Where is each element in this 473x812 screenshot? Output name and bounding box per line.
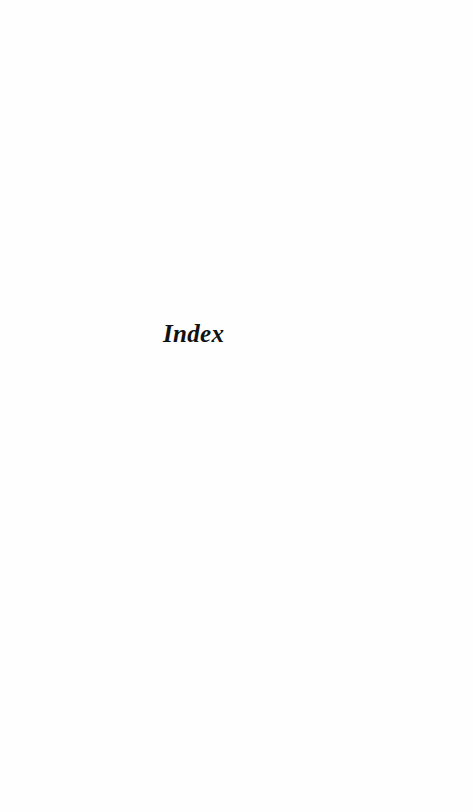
page-title: Index <box>163 320 224 348</box>
document-page: Index <box>0 0 473 812</box>
